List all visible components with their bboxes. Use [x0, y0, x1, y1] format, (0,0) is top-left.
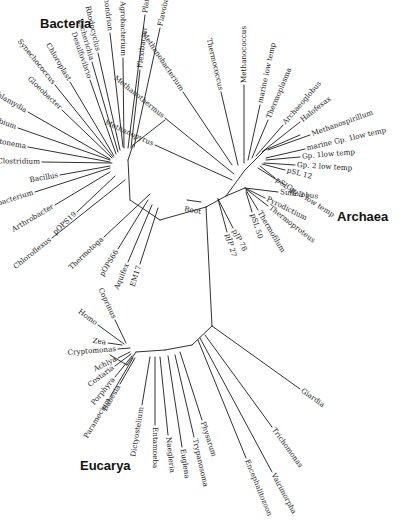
tip-label: Leptonema — [0, 134, 28, 150]
tip-branch — [118, 348, 130, 349]
tip-label: Planctomyces — [140, 0, 155, 14]
tip-label: Gloeobacter — [26, 74, 65, 112]
tip-methanopyrus: Methanopyrus — [104, 118, 232, 180]
tip-label: Trichomonas — [270, 426, 305, 470]
tip-label: Thermotoga — [67, 234, 106, 271]
tip-branch — [115, 320, 126, 343]
tip-branch — [260, 166, 275, 178]
tip-label: Methanothermus — [112, 73, 167, 120]
tip-vairimorpha: Vairimorpha — [200, 338, 299, 516]
tip-branch — [28, 147, 110, 162]
tip-label: Homo — [77, 307, 100, 327]
tip-label: Methanococcus — [239, 26, 248, 83]
tip-label: Euglena — [178, 448, 192, 480]
tip-methanobacterium: Methanobacterium — [140, 30, 232, 165]
tip-branch — [168, 356, 182, 447]
tip-label: Coprinus — [96, 286, 119, 320]
tip-label: mitochondrion — [100, 0, 115, 32]
internal-branch — [165, 345, 192, 350]
tip-branch — [180, 352, 202, 420]
internal-branch — [206, 207, 212, 326]
tip-branch — [212, 326, 300, 389]
tip-branch — [264, 163, 295, 165]
tip-branch — [266, 157, 300, 160]
tip-branch — [160, 357, 168, 435]
tip-label: Chlorobium — [0, 108, 18, 131]
domain-label-bacteria: Bacteria — [40, 16, 92, 31]
tip-entamoeba: Entamoeba — [151, 357, 160, 469]
tip-methanococcus: Methanococcus — [239, 26, 248, 163]
tip-pops19: pOPS19 — [51, 176, 115, 236]
tip-label: Vairimorpha — [269, 471, 299, 516]
eucarya-clade: CoprinusHomoZeaCryptomonasAchlyaCostaria… — [67, 286, 327, 518]
tip-label: Sulfolobus — [280, 187, 319, 201]
tip-planctomyces: Planctomyces — [128, 0, 156, 148]
tip-dictyostelium: Dictyostelium — [128, 357, 150, 457]
tip-trichomonas: Trichomonas — [205, 335, 305, 469]
root-scale-bar — [187, 200, 201, 202]
tip-label: Chlamydia — [0, 87, 29, 114]
tip-branch — [42, 162, 112, 163]
tip-branch — [252, 120, 268, 158]
tip-label: Entamoeba — [151, 427, 160, 469]
tip-label: Cryptomonas — [67, 344, 116, 357]
tip-label: Naegleria — [164, 436, 177, 473]
tip-branch — [218, 199, 227, 232]
tip-branch — [104, 194, 150, 237]
tip-branch — [183, 92, 232, 165]
tip-label: Methanobacterium — [140, 30, 186, 93]
tip-label: Arthrobacter — [9, 201, 56, 234]
domain-label-archaea: Archaea — [337, 209, 389, 224]
tip-thermococcus: Thermococcus — [205, 37, 238, 165]
phylogenetic-tree: mitochondrionRhodocyclusEscherichiaDesul… — [0, 0, 403, 523]
domain-label-eucarya: Eucarya — [80, 458, 131, 473]
tip-branch — [62, 110, 112, 158]
tip-label: Encephalitozoon — [243, 458, 274, 518]
root-label: Root — [184, 204, 202, 216]
tip-label: Chloroflexus — [11, 235, 53, 271]
tip-label: Clostridium — [0, 156, 40, 166]
tip-label: Methanopyrus — [104, 118, 156, 148]
tip-branch — [246, 190, 258, 210]
tip-label: Dictyostelium — [128, 406, 145, 457]
tip-branch — [218, 199, 233, 228]
tip-branch — [77, 176, 115, 212]
internal-branch — [128, 160, 130, 200]
tip-branch — [142, 357, 150, 405]
tip-label: Thermococcus — [205, 37, 226, 91]
internal-branch — [136, 350, 165, 352]
tip-label: Heliobacterium — [0, 188, 34, 214]
tip-label: Agrobacterium — [119, 0, 129, 56]
tip-clostridium: Clostridium — [0, 156, 112, 166]
tip-cryptomonas: Cryptomonas — [67, 344, 130, 357]
tip-label: Bacillus — [29, 170, 59, 184]
tip-label: EM17 — [128, 264, 143, 288]
root-marker: Root — [184, 200, 202, 216]
internal-branch — [265, 135, 300, 150]
tip-branch — [221, 92, 238, 165]
tip-em17: EM17 — [128, 208, 158, 288]
tip-label: Aquifex — [111, 262, 130, 292]
tip-bacillus: Bacillus — [29, 166, 110, 184]
tip-branch — [92, 62, 118, 152]
tip-branch — [140, 208, 158, 264]
tip-label: Giardia — [299, 386, 327, 409]
tip-methanothermus: Methanothermus — [112, 73, 234, 174]
tip-branch — [262, 164, 285, 170]
tip-branch — [52, 180, 125, 238]
tip-label: pOPS19 — [51, 209, 79, 236]
tip-branch — [248, 105, 260, 160]
internal-branch — [206, 196, 226, 207]
tip-label: Flavobacterium — [155, 0, 176, 27]
tip-branch — [256, 125, 283, 156]
tip-naegleria: Naegleria — [160, 357, 177, 474]
tip-branch — [118, 352, 130, 358]
internal-branch — [128, 145, 133, 160]
